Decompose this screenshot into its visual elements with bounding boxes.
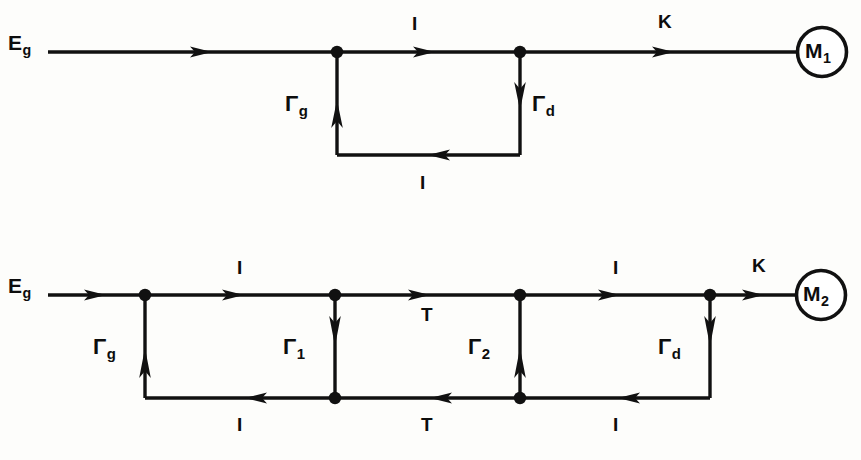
edge-label-gamma-1-lower: Γ1 [283,336,305,362]
node2-dot-1 [139,289,151,301]
source-symbol: E [8,274,22,297]
gamma-subscript: 2 [482,345,490,362]
node2-dot-b2 [329,392,341,404]
edge-label-T-bottom-lower: T [421,415,433,434]
node2-dot-3 [514,289,526,301]
edge-label-I-bottom-upper: I [420,173,425,192]
sink-subscript: 2 [821,293,829,309]
source-symbol: E [8,31,22,54]
figure-canvas: Eg I K Γg Γd I M1 Eg I T I K Γg Γ1 Γ2 [0,0,861,460]
node2-dot-4 [704,289,716,301]
source-subscript: g [23,285,32,301]
gamma-symbol: Γ [285,91,298,116]
edge-label-I2-bottom-lower: I [613,415,618,434]
gamma-subscript: g [299,102,308,119]
gain-symbol: I [613,257,618,278]
edge-label-T-top-lower: T [421,305,433,324]
sink-symbol: M [803,282,821,305]
edge-label-gamma-g-upper: Γg [285,93,308,119]
lower-graph-group [48,271,846,405]
gain-symbol: I [412,13,417,34]
gamma-subscript: d [546,102,555,119]
source-subscript: g [23,42,32,58]
edge-label-I1-bottom-lower: I [237,415,242,434]
upper-graph-group [48,28,847,161]
gain-symbol: T [421,414,433,435]
node2-dot-2 [329,289,341,301]
edge-label-I1-top-lower: I [237,258,242,277]
edge-label-K-upper: K [658,12,672,31]
gain-symbol: T [421,304,433,325]
edge-label-gamma-g-lower: Γg [93,336,116,362]
gamma-subscript: d [672,345,681,362]
node2-dot-b3 [514,392,526,404]
gamma-subscript: g [107,345,116,362]
sink-symbol: M [805,39,823,62]
node-dot-1 [331,46,343,58]
sink-label-m1: M1 [805,40,831,65]
source-label-eg-upper: Eg [8,32,31,57]
source-label-eg-lower: Eg [8,275,31,300]
edge-label-gamma-2-lower: Γ2 [468,336,490,362]
edge-label-I-top-upper: I [412,14,417,33]
signal-flow-graph-svg [0,0,861,460]
gain-symbol: I [237,414,242,435]
sink-subscript: 1 [823,50,831,66]
gain-symbol: I [613,414,618,435]
gain-symbol: I [237,257,242,278]
gain-symbol: K [752,255,766,276]
edge-label-gamma-d-upper: Γd [532,93,555,119]
gamma-subscript: 1 [297,345,305,362]
node-dot-2 [514,46,526,58]
edge-label-I2-top-lower: I [613,258,618,277]
gamma-symbol: Γ [283,334,296,359]
gain-symbol: K [658,11,672,32]
gamma-symbol: Γ [93,334,106,359]
gamma-symbol: Γ [532,91,545,116]
edge-label-gamma-d-lower: Γd [658,336,681,362]
edge-label-K-lower: K [752,256,766,275]
sink-label-m2: M2 [803,283,829,308]
gamma-symbol: Γ [658,334,671,359]
gamma-symbol: Γ [468,334,481,359]
gain-symbol: I [420,172,425,193]
